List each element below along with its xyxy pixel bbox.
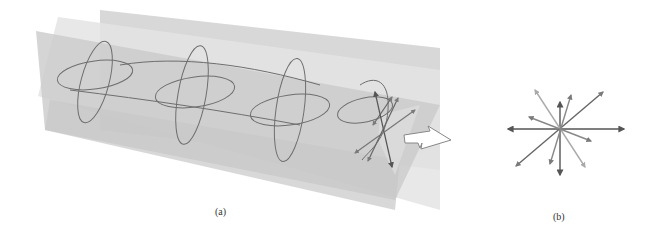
panel-b bbox=[508, 90, 624, 175]
panel-a-caption: (a) bbox=[215, 206, 226, 217]
panel-a bbox=[36, 10, 451, 210]
unpolarized-light-diagram bbox=[0, 0, 656, 242]
panel-b-caption: (b) bbox=[553, 211, 565, 222]
